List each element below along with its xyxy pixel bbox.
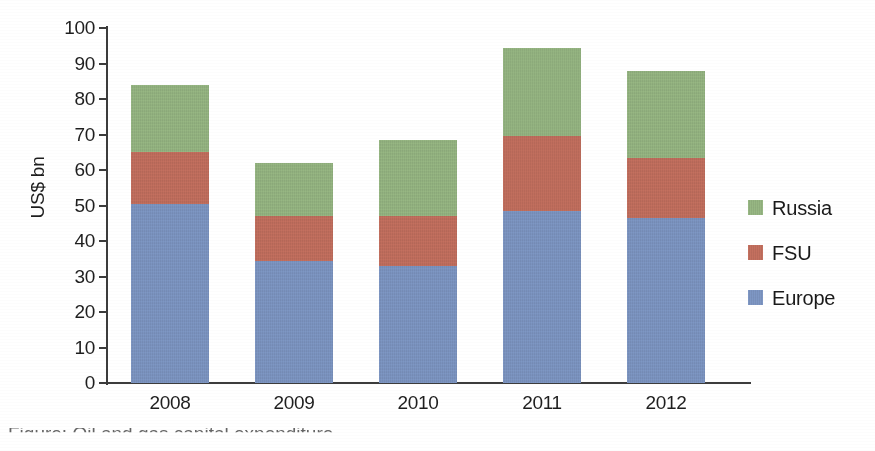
bar-segment <box>503 211 581 383</box>
bar-segment <box>255 216 333 260</box>
y-axis-tick <box>99 98 107 100</box>
bar-group <box>627 71 705 383</box>
plot-area <box>108 28 728 383</box>
y-axis-tick <box>99 347 107 349</box>
x-axis-label: 2010 <box>356 392 480 414</box>
legend-item-label: FSU <box>772 243 811 263</box>
y-axis-tick <box>99 134 107 136</box>
y-axis-tick-label: 50 <box>33 196 95 215</box>
legend-swatch-icon <box>748 245 763 260</box>
y-axis-tick <box>99 27 107 29</box>
x-axis-label: 2008 <box>108 392 232 414</box>
x-axis-label: 2011 <box>480 392 604 414</box>
y-axis-tick-label: 10 <box>33 338 95 357</box>
legend-item-label: Europe <box>772 288 835 308</box>
y-axis-tick-label: 40 <box>33 231 95 250</box>
bar-group <box>379 140 457 383</box>
bar-group <box>503 48 581 383</box>
bar-segment <box>255 163 333 216</box>
bar-segment <box>379 140 457 216</box>
bar-segment <box>503 136 581 211</box>
legend-item: Russia <box>748 185 873 230</box>
bar-segment <box>627 158 705 218</box>
chart-container: US$ bn 1009080706050403020100 2008200920… <box>0 0 875 451</box>
y-axis-tick-label: 0 <box>33 373 95 392</box>
bar-segment <box>131 85 209 152</box>
y-axis-tick <box>99 382 107 384</box>
bar-segment <box>255 261 333 383</box>
y-axis-tick <box>99 169 107 171</box>
y-axis-tick-label: 70 <box>33 125 95 144</box>
legend-item-label: Russia <box>772 198 832 218</box>
y-axis-tick <box>99 276 107 278</box>
bar-segment <box>627 218 705 383</box>
y-axis-tick-label: 30 <box>33 267 95 286</box>
legend-swatch-icon <box>748 290 763 305</box>
page-caption: Figure: Oil and gas capital expenditure <box>0 428 875 451</box>
chart-legend: RussiaFSUEurope <box>748 185 873 320</box>
y-axis-tick-label: 90 <box>33 54 95 73</box>
y-axis-tick <box>99 311 107 313</box>
y-axis-tick-label: 20 <box>33 302 95 321</box>
x-axis-label: 2009 <box>232 392 356 414</box>
y-axis-tick-label: 100 <box>33 18 95 37</box>
bar-segment <box>131 152 209 203</box>
x-axis-label: 2012 <box>604 392 728 414</box>
bar-segment <box>627 71 705 158</box>
y-axis-tick-label: 80 <box>33 89 95 108</box>
y-axis-tick-label: 60 <box>33 160 95 179</box>
legend-item: Europe <box>748 275 873 320</box>
legend-item: FSU <box>748 230 873 275</box>
bar-segment <box>503 48 581 137</box>
bar-group <box>131 85 209 383</box>
y-axis-tick <box>99 205 107 207</box>
legend-swatch-icon <box>748 200 763 215</box>
y-axis-tick <box>99 240 107 242</box>
caption-text: Figure: Oil and gas capital expenditure <box>8 428 333 445</box>
bar-group <box>255 163 333 383</box>
bar-segment <box>379 266 457 383</box>
bar-segment <box>379 216 457 266</box>
bar-segment <box>131 204 209 383</box>
y-axis-tick <box>99 63 107 65</box>
